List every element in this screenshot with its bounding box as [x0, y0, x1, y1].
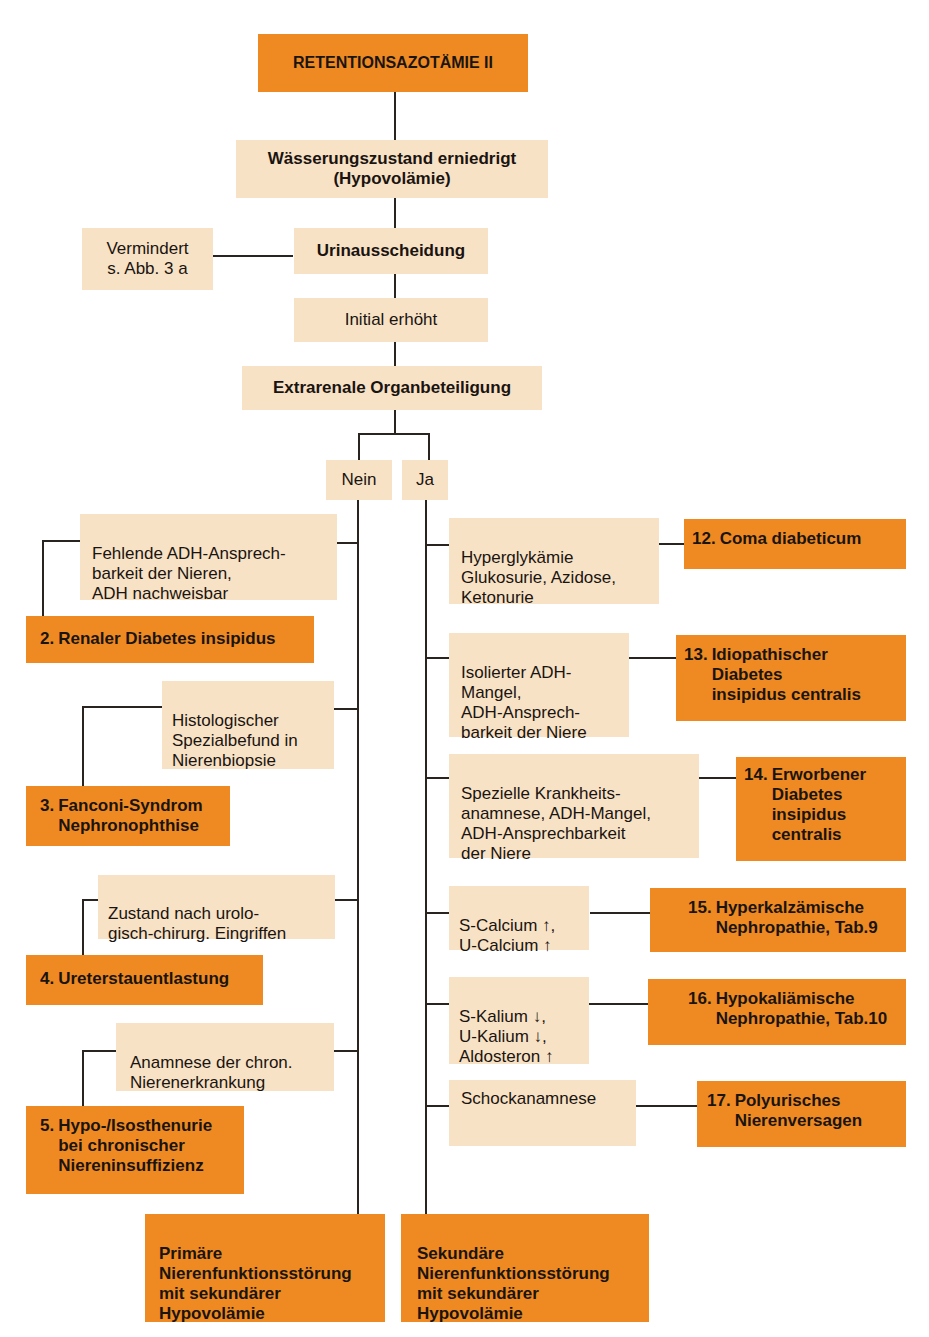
extrarenal-node: Extrarenale Organbeteiligung: [242, 366, 542, 410]
extrarenal-text: Extrarenale Organbeteiligung: [273, 378, 511, 398]
diagnosis-14: 14.Erworbener Diabetes insipidus central…: [736, 757, 906, 861]
connector: [394, 274, 396, 298]
no-text: Nein: [342, 470, 377, 490]
connector: [394, 342, 396, 366]
diagnosis-3: 3.Fanconi-Syndrom Nephronophthise: [26, 786, 230, 846]
connector: [628, 657, 676, 659]
connector: [428, 433, 430, 461]
yes-node: Ja: [402, 460, 448, 500]
criterion-potassium: S-Kalium ↓, U-Kalium ↓, Aldosteron ↑: [449, 977, 589, 1064]
connector: [82, 899, 98, 901]
connector: [394, 92, 396, 144]
connector: [82, 1050, 116, 1052]
connector: [42, 540, 44, 616]
hydration-text: Wässerungszustand erniedrigt (Hypovolämi…: [268, 149, 516, 189]
criterion-calcium: S-Calcium ↑, U-Calcium ↑: [449, 886, 589, 950]
connector: [590, 912, 650, 914]
criterion-biopsy: Histologischer Spezialbefund in Nierenbi…: [162, 681, 334, 769]
criterion-chronic-kidney-history: Anamnese der chron. Nierenerkrankung: [116, 1023, 334, 1091]
diagnosis-4: 4.Ureterstauentlastung: [26, 955, 263, 1005]
connector: [334, 1050, 357, 1052]
connector: [213, 255, 293, 257]
connector: [425, 912, 449, 914]
connector: [358, 433, 430, 435]
criterion-hyperglycemia: Hyperglykämie Glukosurie, Azidose, Keton…: [449, 518, 659, 604]
connector: [394, 198, 396, 228]
initial-increased-text: Initial erhöht: [345, 310, 438, 330]
diagnosis-5: 5.Hypo-/Isosthenurie bei chronischer Nie…: [26, 1106, 244, 1194]
diagnosis-2: 2.Renaler Diabetes insipidus: [26, 616, 314, 663]
connector: [425, 777, 449, 779]
secondary-dysfunction-conclusion: Sekundäre Nierenfunktionsstörung mit sek…: [401, 1214, 649, 1322]
no-branch-trunk: [357, 498, 359, 1214]
urine-excretion-text: Urinausscheidung: [317, 241, 465, 261]
diagnosis-12: 12.Coma diabeticum: [684, 519, 906, 569]
connector: [636, 1105, 698, 1107]
connector: [335, 899, 357, 901]
connector: [425, 657, 449, 659]
connector: [334, 708, 357, 710]
connector: [425, 1105, 449, 1107]
initial-increased-node: Initial erhöht: [294, 298, 488, 342]
connector: [425, 1003, 449, 1005]
diagnosis-17: 17.Polyurisches Nierenversagen: [697, 1081, 906, 1147]
urine-excretion-node: Urinausscheidung: [294, 228, 488, 274]
connector: [82, 706, 84, 786]
title-box: RETENTIONSAZOTÄMIE II: [258, 34, 528, 92]
connector: [82, 899, 84, 955]
reduced-node: Vermindert s. Abb. 3 a: [82, 228, 213, 290]
connector: [358, 433, 360, 461]
connector: [659, 543, 685, 545]
connector: [698, 777, 738, 779]
criterion-urologic-surgery: Zustand nach urolo- gisch-chirurg. Eingr…: [98, 875, 335, 939]
diagnosis-15: 15.Hyperkalzämische Nephropathie, Tab.9: [650, 888, 906, 952]
title-text: RETENTIONSAZOTÄMIE II: [293, 53, 493, 73]
yes-text: Ja: [416, 470, 434, 490]
criterion-special-history: Spezielle Krankheits- anamnese, ADH-Mang…: [449, 754, 699, 858]
criterion-shock-history: Schockanamnese: [449, 1080, 636, 1146]
connector: [425, 544, 449, 546]
connector: [588, 1003, 648, 1005]
criterion-isolated-adh-deficiency: Isolierter ADH- Mangel, ADH-Ansprech- ba…: [449, 633, 629, 737]
reduced-text: Vermindert s. Abb. 3 a: [106, 239, 188, 279]
connector: [82, 706, 162, 708]
connector: [337, 542, 357, 544]
connector: [82, 1050, 84, 1106]
diagnosis-16: 16.Hypokaliämische Nephropathie, Tab.10: [648, 979, 906, 1045]
hydration-node: Wässerungszustand erniedrigt (Hypovolämi…: [236, 140, 548, 198]
no-node: Nein: [326, 460, 392, 500]
diagnosis-13: 13.Idiopathischer Diabetes insipidus cen…: [676, 635, 906, 721]
criterion-adh-unresponsive: Fehlende ADH-Ansprech- barkeit der Niere…: [80, 514, 337, 600]
connector: [42, 540, 80, 542]
primary-dysfunction-conclusion: Primäre Nierenfunktionsstörung mit sekun…: [145, 1214, 385, 1322]
connector: [394, 410, 396, 434]
